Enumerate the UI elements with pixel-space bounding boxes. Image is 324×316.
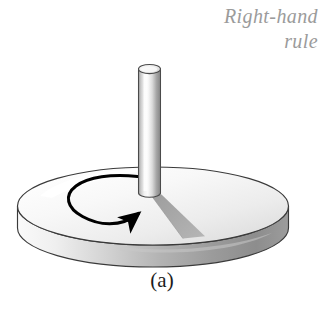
rod-top-cap-inner xyxy=(141,67,157,73)
right-hand-rule-label-line2: rule xyxy=(284,29,318,54)
right-hand-rule-figure: Right-hand rule (a) xyxy=(0,0,324,316)
right-hand-rule-label-line1: Right-hand xyxy=(224,4,318,29)
figure-caption: (a) xyxy=(0,268,324,293)
rod-group xyxy=(139,64,161,197)
rod-shaft xyxy=(139,69,161,197)
rod-highlight xyxy=(144,71,147,191)
